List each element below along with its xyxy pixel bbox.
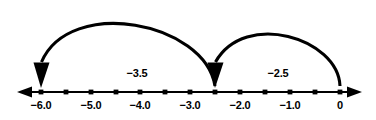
axis-arrow-left-icon <box>17 87 32 98</box>
axis-arrow-right-icon <box>347 87 362 98</box>
tick-label--1.0: −1.0 <box>280 99 301 111</box>
tick-label--2.0: −2.0 <box>230 99 251 111</box>
jump-label-minus-3point5: −3.5 <box>127 67 148 79</box>
tick-dot <box>188 90 193 95</box>
tick-label--4.0: −4.0 <box>130 99 151 111</box>
tick-dot <box>238 90 243 95</box>
jump-label-minus-2point5: −2.5 <box>268 67 289 79</box>
tick-dot <box>64 90 69 95</box>
tick-dot <box>138 90 143 95</box>
tick-dot <box>338 90 343 95</box>
tick-dot <box>313 90 318 95</box>
tick-dot <box>114 90 119 95</box>
jump-arrowhead-minus-2point5-icon <box>208 63 224 89</box>
tick-label--3.0: −3.0 <box>180 99 201 111</box>
number-line-diagram: −6.0 −5.0 −4.0 −3.0 −2.0 −1.0 0 −3.5 −2.… <box>0 0 376 120</box>
tick-dot <box>213 90 218 95</box>
tick-dot <box>263 90 268 95</box>
tick-dot <box>163 90 168 95</box>
jump-arrowhead-minus-3point5-icon <box>34 63 50 89</box>
tick-dot <box>89 90 94 95</box>
tick-label--5.0: −5.0 <box>81 99 102 111</box>
tick-dot <box>288 90 293 95</box>
tick-dot <box>39 90 44 95</box>
tick-label--6.0: −6.0 <box>31 99 52 111</box>
tick-label-0: 0 <box>337 99 343 111</box>
